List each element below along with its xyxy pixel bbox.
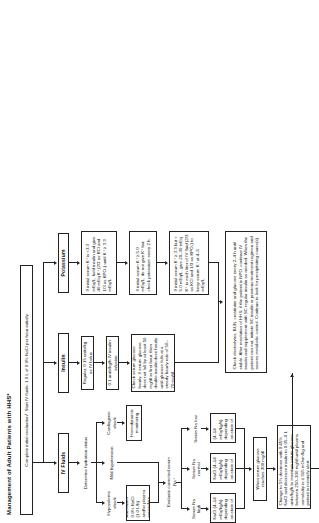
arrow-icon (187, 427, 190, 431)
connector (43, 263, 44, 463)
hydration-option-hypovolemic-shock: Hypovolemic shock (106, 486, 117, 520)
connector (175, 362, 218, 363)
connector (181, 429, 182, 509)
connector (33, 462, 43, 463)
column-header-potassium: Potassium (58, 233, 69, 293)
potassium-high-node: If initial serum K⁺ ≥ 5.0 mEq/L, do not … (129, 231, 157, 295)
dextrose-action-node: Change to 5% dextrose with 0.45% NaCl an… (277, 425, 311, 509)
cardiogenic-action-node: Hemodynamic monitoring (126, 405, 142, 441)
arrow-icon (102, 461, 105, 465)
connector (236, 468, 244, 469)
connector (96, 423, 97, 503)
start-node: Complete initial evaluation¹. Start IV f… (20, 265, 33, 515)
column-header-insulin: Insulin (58, 333, 69, 393)
rotated-flowchart-wrapper: Management of Adult Patients with HHS* C… (0, 0, 316, 523)
insulin-monitor-node: Check serum glucose hourly. If serum glu… (131, 334, 175, 392)
hypovolemic-action-node: Administer 0.9% NaCl (1.0 L/h) and/or pl… (126, 485, 150, 521)
flowchart-canvas: Management of Adult Patients with HHS* C… (0, 0, 316, 523)
connector (218, 262, 219, 363)
connector (117, 462, 158, 463)
connector (292, 373, 293, 469)
connector (236, 508, 244, 509)
footer-monitoring-node: Check electrolytes, BUN, creatinine and … (225, 231, 267, 373)
serum-na-normal-label: Serum Na normal (191, 455, 201, 483)
arrow-icon (122, 501, 125, 505)
arrow-icon (102, 361, 105, 365)
connector (209, 262, 218, 263)
arrow-icon (206, 427, 209, 431)
potassium-low-node: If initial serum K⁺ is <3.3 mEq/L, hold … (81, 231, 117, 295)
na-high-action-node: 0.45% NaCl (4–14 mEq/kg/h) depending on … (210, 493, 236, 523)
arrow-icon (77, 261, 80, 265)
connector (311, 468, 316, 469)
arrow-icon (165, 261, 168, 265)
serum-na-low-label: Serum Na low (191, 415, 201, 443)
arrow-icon (54, 361, 57, 365)
insulin-bolus-node: Regular, 0.15 units/kg as IV bolus (81, 336, 94, 390)
hydration-option-cardiogenic-shock: Cardiogenic shock (106, 406, 117, 440)
column-header-iv-fluids: IV Fluids (58, 433, 69, 493)
insulin-infusion-node: 0.1 units/kg/h IV insulin infusion (106, 336, 119, 390)
connector (150, 502, 158, 503)
arrow-icon (102, 501, 105, 505)
na-normal-action-node: 0.45% NaCl (4–14 mEq/kg/h) depending on … (210, 453, 236, 483)
arrow-icon (54, 261, 57, 265)
arrow-icon (122, 421, 125, 425)
arrow-icon (206, 507, 209, 511)
hydration-option-mild-hypotension: Mild hypotension (106, 446, 117, 480)
potassium-mid-node: If initial serum K⁺ ≥ 3.3 but < 5.0 mEq/… (169, 231, 209, 295)
arrow-icon (249, 467, 252, 471)
arrow-icon (273, 467, 276, 471)
glucose-trigger-node: When serum glucose reaches 300 mg/dl (253, 437, 267, 501)
determine-hydration-label: Determine hydration status (81, 436, 91, 490)
arrow-icon (125, 261, 128, 265)
arrow-icon (187, 507, 190, 511)
arrow-icon (206, 467, 209, 471)
arrow-icon (102, 421, 105, 425)
page-title: Management of Adult Patients with HHS* (6, 393, 12, 515)
evaluate-serum-na-label: Evaluate corrected serum Na⁺ (167, 455, 176, 509)
arrow-icon (220, 300, 223, 304)
arrow-icon (77, 461, 80, 465)
serum-na-high-label: Serum Na high (191, 495, 201, 523)
arrow-icon (290, 374, 294, 377)
arrow-icon (187, 467, 190, 471)
arrow-icon (77, 361, 80, 365)
arrow-icon (127, 361, 130, 365)
connector (236, 428, 244, 429)
arrow-icon (54, 461, 57, 465)
na-low-action-node: 0.9% NaCl (4–14 mEq/kg/h) depending on s… (210, 413, 236, 443)
